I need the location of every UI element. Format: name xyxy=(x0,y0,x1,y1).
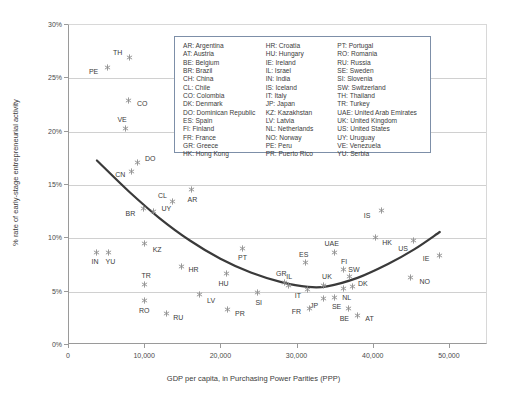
legend-entry: TR: Turkey xyxy=(337,100,424,108)
legend-entry: PR: Puerto Rico xyxy=(266,150,332,158)
data-point-label: IT xyxy=(295,291,301,298)
y-axis-title: % rate of early-stage entrepreneurial ac… xyxy=(11,63,20,283)
legend-entry: RU: Russia xyxy=(337,59,424,67)
legend-entry: AR: Argentina xyxy=(183,42,260,50)
data-point-label: BR xyxy=(126,209,136,216)
legend-entry: SW: Switzerland xyxy=(337,84,424,92)
legend-entry: FI: Finland xyxy=(183,125,260,133)
data-point-label: TH xyxy=(113,49,122,56)
legend-entry: NL: Netherlands xyxy=(266,125,332,133)
legend-entry: UK: United Kingdom xyxy=(337,117,424,125)
legend-entry: NO: Norway xyxy=(266,134,332,142)
legend-entry: TH: Thailand xyxy=(337,92,424,100)
data-point-label: SW xyxy=(348,265,359,272)
legend-entry: HR: Croatia xyxy=(266,42,332,50)
legend-entry: UY: Uruguay xyxy=(337,134,424,142)
legend-entry: DK: Denmark xyxy=(183,100,260,108)
data-point-label: DO xyxy=(145,154,156,161)
legend-entry: VE: Venezuela xyxy=(337,142,424,150)
legend-entry: YU: Serbia xyxy=(337,150,424,158)
data-point-label: HR xyxy=(188,266,198,273)
legend-entry: RO: Romania xyxy=(337,50,424,58)
data-point-label: PE xyxy=(89,67,98,74)
legend-entry: IT: Italy xyxy=(266,92,332,100)
legend-entry: PT: Portugal xyxy=(337,42,424,50)
legend-column-3: PT: PortugalRO: RomaniaRU: RussiaSE: Swe… xyxy=(337,42,424,148)
x-axis-title: GDP per capita, in Purchasing Power Pari… xyxy=(0,374,507,383)
data-point-label: RU xyxy=(173,314,183,321)
data-point-label: IE xyxy=(423,255,430,262)
data-point-label: NL xyxy=(342,293,351,300)
legend-entry: BR: Brazil xyxy=(183,67,260,75)
country-code-legend: AR: ArgentinaAT: AustriaBE: BelgiumBR: B… xyxy=(174,36,431,153)
data-point-label: FI xyxy=(341,258,347,265)
legend-entry: IS: Iceland xyxy=(266,84,332,92)
data-point-label: PR xyxy=(235,309,245,316)
data-point-label: AT xyxy=(365,315,373,322)
legend-entry: HK: Hong Kong xyxy=(183,150,260,158)
scatter-chart: 0%5%10%15%20%25%30% 010,00020,00030,0004… xyxy=(0,0,507,408)
data-point-label: BE xyxy=(340,314,349,321)
data-point-label: SE xyxy=(332,303,341,310)
legend-entry: IN: India xyxy=(266,75,332,83)
data-point-label: CN xyxy=(115,171,125,178)
data-point-label: YU xyxy=(106,258,116,265)
trend-line-path xyxy=(97,161,440,288)
data-point-label: ES xyxy=(299,250,308,257)
legend-entry: AT: Austria xyxy=(183,50,260,58)
data-point-label: IS xyxy=(364,211,371,218)
data-point-label: FR xyxy=(292,307,301,314)
legend-entry: JP: Japan xyxy=(266,100,332,108)
legend-entry: ES: Spain xyxy=(183,117,260,125)
legend-column-2: HR: CroatiaHU: HungaryIE: IrelandIL: Isr… xyxy=(266,42,332,148)
data-point-label: GR xyxy=(276,270,287,277)
legend-column-1: AR: ArgentinaAT: AustriaBE: BelgiumBR: B… xyxy=(183,42,260,148)
legend-entry: KZ: Kazakhstan xyxy=(266,109,332,117)
legend-entry: IL: Israel xyxy=(266,67,332,75)
legend-entry: HU: Hungary xyxy=(266,50,332,58)
data-point-label: SI xyxy=(255,298,262,305)
data-point-label: KZ xyxy=(153,245,162,252)
data-point-label: UK xyxy=(322,273,332,280)
data-point-label: US xyxy=(398,244,408,251)
data-point-label: PT xyxy=(238,254,247,261)
legend-entry: GR: Greece xyxy=(183,142,260,150)
legend-entry: US: United States xyxy=(337,125,424,133)
data-point-label: JP xyxy=(310,302,318,309)
legend-entry: BE: Belgium xyxy=(183,59,260,67)
legend-entry: LV: Latvia xyxy=(266,117,332,125)
data-point-label: RO xyxy=(139,307,150,314)
data-point-label: IN xyxy=(91,258,98,265)
data-point-label: IL xyxy=(286,273,292,280)
data-point-label: HK xyxy=(382,239,392,246)
data-point-label: LV xyxy=(207,296,215,303)
data-point-label: CO xyxy=(137,99,148,106)
legend-entry: CO: Colombia xyxy=(183,92,260,100)
data-point-label: DK xyxy=(358,280,368,287)
data-point-label: UY xyxy=(161,204,171,211)
data-point-label: NO xyxy=(420,277,431,284)
legend-entry: SI: Slovenia xyxy=(337,75,424,83)
data-point-label: AR xyxy=(188,196,198,203)
legend-entry: IE: Ireland xyxy=(266,59,332,67)
data-point-label: UAE xyxy=(324,240,338,247)
legend-entry: PE: Peru xyxy=(266,142,332,150)
legend-entry: CL: Chile xyxy=(183,84,260,92)
data-point-label: CL xyxy=(158,192,167,199)
legend-entry: UAE: United Arab Emirates xyxy=(337,109,424,117)
legend-entry: CH: China xyxy=(183,75,260,83)
data-point-label: TR xyxy=(142,272,151,279)
legend-entry: DO: Dominican Republic xyxy=(183,109,260,117)
data-point-label: HU xyxy=(218,279,228,286)
data-point-label: VE xyxy=(117,115,126,122)
legend-entry: SE: Sweden xyxy=(337,67,424,75)
legend-entry: FR: France xyxy=(183,134,260,142)
